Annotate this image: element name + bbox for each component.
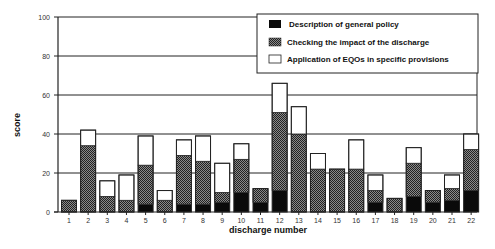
bar-17 <box>368 175 383 212</box>
bar-segment-impact <box>62 200 77 212</box>
y-tick-label: 100 <box>38 14 50 21</box>
bar-segment-policy <box>196 204 211 212</box>
x-axis: 12345678910111213141516171819202122 <box>54 212 477 224</box>
x-tick-label: 9 <box>220 217 224 224</box>
bar-segment-impact <box>291 134 306 212</box>
bars <box>62 83 479 212</box>
bar-segment-policy <box>406 196 421 212</box>
x-tick-label: 11 <box>257 217 264 224</box>
bar-1 <box>62 200 77 212</box>
bar-segment-policy <box>253 202 268 212</box>
bar-segment-policy <box>464 191 479 212</box>
bar-21 <box>445 175 460 212</box>
bar-10 <box>234 144 249 212</box>
x-axis-title: discharge number <box>229 225 308 235</box>
legend-label-impact: Checking the impact of the discharge <box>287 38 430 47</box>
bar-segment-eqos <box>291 107 306 134</box>
x-tick-label: 19 <box>410 217 418 224</box>
y-tick-label: 20 <box>42 170 50 177</box>
stacked-bar-chart: 020406080100 123456789101112131415161718… <box>0 0 495 249</box>
bar-segment-eqos <box>81 130 96 146</box>
bar-segment-eqos <box>310 154 325 170</box>
x-tick-label: 2 <box>86 217 90 224</box>
bar-segment-eqos <box>119 175 134 200</box>
bar-12 <box>272 83 287 212</box>
bar-segment-impact <box>445 189 460 201</box>
y-tick-label: 60 <box>42 92 50 99</box>
x-tick-label: 10 <box>237 217 245 224</box>
bar-segment-impact <box>330 169 345 212</box>
bar-18 <box>387 198 402 212</box>
bar-15 <box>330 169 345 212</box>
bar-6 <box>157 191 172 212</box>
bar-segment-eqos <box>406 148 421 164</box>
bar-segment-impact <box>100 196 115 212</box>
x-tick-label: 18 <box>391 217 399 224</box>
legend-label-policy: Description of general policy <box>289 20 399 29</box>
bar-segment-eqos <box>234 144 249 160</box>
bar-20 <box>425 191 440 212</box>
x-tick-label: 3 <box>105 217 109 224</box>
bar-segment-eqos <box>138 136 153 165</box>
bar-segment-eqos <box>176 140 191 156</box>
bar-segment-impact <box>310 169 325 212</box>
bar-9 <box>215 163 230 212</box>
y-tick-label: 80 <box>42 53 50 60</box>
bar-3 <box>100 181 115 212</box>
bar-segment-eqos <box>157 191 172 201</box>
x-tick-label: 15 <box>333 217 341 224</box>
bar-segment-impact <box>349 169 364 212</box>
legend-swatch-black <box>269 20 281 28</box>
bar-segment-eqos <box>445 175 460 189</box>
y-tick-label: 40 <box>42 131 50 138</box>
bar-11 <box>253 189 268 212</box>
x-tick-label: 6 <box>163 217 167 224</box>
bar-segment-impact <box>138 165 153 204</box>
bar-13 <box>291 107 306 212</box>
x-tick-label: 21 <box>448 217 456 224</box>
bar-5 <box>138 136 153 212</box>
y-axis-title: score <box>12 113 22 137</box>
bar-segment-eqos <box>272 83 287 112</box>
x-tick-label: 20 <box>429 217 437 224</box>
bar-segment-policy <box>425 202 440 212</box>
bar-segment-policy <box>445 200 460 212</box>
bar-segment-policy <box>176 204 191 212</box>
bar-segment-policy <box>138 204 153 212</box>
bar-7 <box>176 140 191 212</box>
bar-segment-impact <box>464 150 479 191</box>
x-tick-label: 14 <box>314 217 322 224</box>
bar-segment-eqos <box>464 134 479 150</box>
bar-16 <box>349 140 364 212</box>
legend: Description of general policy Checking t… <box>257 14 478 73</box>
x-tick-label: 13 <box>295 217 303 224</box>
x-tick-label: 16 <box>352 217 360 224</box>
bar-segment-eqos <box>100 181 115 197</box>
bar-segment-eqos <box>196 136 211 161</box>
x-tick-label: 12 <box>276 217 284 224</box>
bar-segment-impact <box>196 161 211 204</box>
bar-segment-impact <box>253 189 268 203</box>
bar-14 <box>310 154 325 213</box>
bar-4 <box>119 175 134 212</box>
x-tick-label: 8 <box>201 217 205 224</box>
bar-19 <box>406 148 421 212</box>
bar-segment-impact <box>387 198 402 212</box>
bar-segment-impact <box>119 200 134 212</box>
bar-2 <box>81 130 96 212</box>
x-tick-label: 7 <box>182 217 186 224</box>
bar-segment-policy <box>368 202 383 212</box>
bar-8 <box>196 136 211 212</box>
bar-segment-eqos <box>215 163 230 192</box>
bar-segment-impact <box>157 200 172 212</box>
bar-segment-impact <box>215 193 230 203</box>
bar-segment-policy <box>272 191 287 212</box>
bar-segment-eqos <box>349 140 364 169</box>
x-tick-label: 1 <box>67 217 71 224</box>
bar-segment-policy <box>234 193 249 213</box>
x-tick-label: 4 <box>124 217 128 224</box>
legend-swatch-hatched <box>269 38 281 46</box>
legend-label-eqos: Application of EQOs in specific provisio… <box>287 55 449 64</box>
legend-swatch-white <box>269 55 281 63</box>
x-tick-label: 17 <box>372 217 380 224</box>
